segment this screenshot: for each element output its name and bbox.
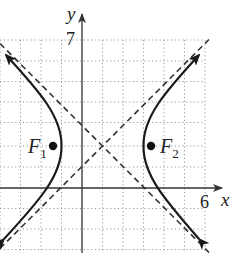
- y-axis-label: y: [65, 3, 76, 24]
- hyperbola-graph: F1 F2 y 7 x 6: [0, 0, 234, 253]
- x-tick-label-6: 6: [200, 192, 209, 212]
- focus-f1-point: [49, 142, 57, 150]
- focus-f1-label: F1: [27, 135, 47, 161]
- x-axis-label: x: [220, 189, 230, 210]
- y-tick-label-7: 7: [66, 29, 75, 49]
- focus-f2-point: [147, 142, 155, 150]
- focus-f2-label: F2: [159, 135, 179, 161]
